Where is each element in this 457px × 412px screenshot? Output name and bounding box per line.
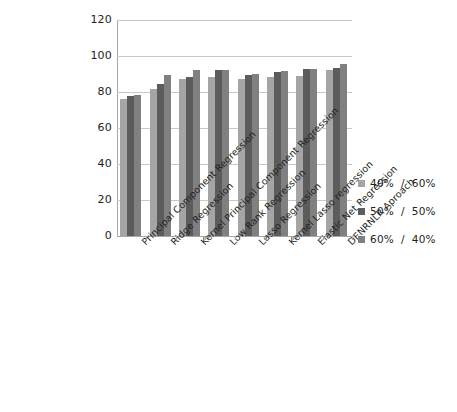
- plot-area: [117, 20, 352, 236]
- legend-item: 40% / 60%: [358, 172, 457, 194]
- x-axis-tick-mark: [205, 236, 206, 240]
- bar: [326, 70, 333, 237]
- y-axis-tick-label: 100: [78, 50, 112, 61]
- bar-group: [150, 20, 171, 236]
- legend-item: 60% / 40%: [358, 228, 457, 250]
- bar: [208, 77, 215, 236]
- legend-item: 50% / 50%: [358, 200, 457, 222]
- bar-group: [267, 20, 288, 236]
- bar: [252, 74, 259, 236]
- bar-group: [208, 20, 229, 236]
- bar: [296, 76, 303, 236]
- legend-swatch-icon: [358, 208, 365, 215]
- x-axis-tick-mark: [264, 236, 265, 240]
- bar: [120, 99, 127, 236]
- bar-group: [326, 20, 347, 236]
- chart-legend: 40% / 60%50% / 50%60% / 40%: [358, 172, 457, 256]
- x-axis-tick-mark: [352, 236, 353, 240]
- bar-group: [120, 20, 141, 236]
- bar-group: [238, 20, 259, 236]
- bar: [157, 84, 164, 236]
- y-axis-tick-label: 0: [78, 230, 112, 241]
- x-axis-tick-mark: [293, 236, 294, 240]
- bar: [267, 77, 274, 236]
- bar: [303, 69, 310, 236]
- bar: [134, 95, 141, 236]
- y-axis-tick-label: 20: [78, 194, 112, 205]
- bar-chart-figure: 020406080100120 Principal Component Regr…: [0, 0, 457, 412]
- bar: [222, 70, 229, 237]
- y-axis-tick-label: 60: [78, 122, 112, 133]
- legend-swatch-icon: [358, 180, 365, 187]
- x-axis-tick-mark: [323, 236, 324, 240]
- bar-group: [296, 20, 317, 236]
- bar: [193, 70, 200, 236]
- x-axis-tick-mark: [146, 236, 147, 240]
- legend-label: 40% / 60%: [370, 178, 436, 189]
- bar: [179, 79, 186, 237]
- bar: [127, 96, 134, 236]
- legend-label: 50% / 50%: [370, 206, 436, 217]
- bar: [245, 75, 252, 236]
- x-axis-tick-mark: [176, 236, 177, 240]
- legend-swatch-icon: [358, 236, 365, 243]
- legend-label: 60% / 40%: [370, 234, 436, 245]
- caption-strip: [0, 406, 457, 412]
- bar-group: [179, 20, 200, 236]
- bar: [281, 71, 288, 236]
- bar: [186, 77, 193, 236]
- x-axis-tick-mark: [235, 236, 236, 240]
- bar: [333, 68, 340, 236]
- bar: [238, 79, 245, 236]
- bar: [274, 72, 281, 236]
- bar: [310, 69, 317, 236]
- bar: [150, 89, 157, 236]
- bar: [340, 64, 347, 236]
- bar: [164, 75, 171, 236]
- y-axis-tick-label: 40: [78, 158, 112, 169]
- y-axis-tick-label: 80: [78, 86, 112, 97]
- y-axis: 020406080100120: [72, 0, 112, 256]
- y-axis-tick-label: 120: [78, 14, 112, 25]
- bar: [215, 70, 222, 236]
